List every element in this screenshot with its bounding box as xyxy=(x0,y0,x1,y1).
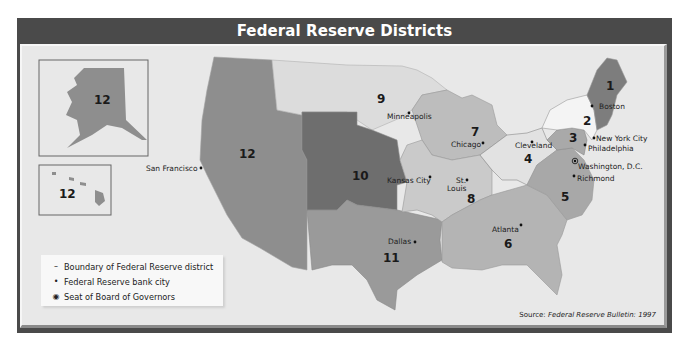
district-12-label: 12 xyxy=(239,147,256,161)
legend-item-bank-city: • Federal Reserve bank city xyxy=(51,274,223,289)
district-2-label: 2 xyxy=(583,114,591,128)
map-frame: Federal Reserve Districts 12 12 xyxy=(17,18,672,333)
city-dallas: Dallas xyxy=(388,237,411,246)
city-kansas-city: Kansas City xyxy=(387,176,431,185)
legend-item-boundary: – Boundary of Federal Reserve district xyxy=(51,259,223,274)
district-9-label: 9 xyxy=(377,92,385,106)
district-1-label: 1 xyxy=(606,79,614,93)
board-seat-icon: ◉ xyxy=(51,292,61,301)
city-philadelphia: Philadelphia xyxy=(588,144,634,153)
city-richmond: Richmond xyxy=(577,174,615,183)
district-7-label: 7 xyxy=(471,125,479,139)
city-chicago: Chicago xyxy=(451,140,482,149)
boundary-line-icon: – xyxy=(51,262,61,271)
city-atlanta: Atlanta xyxy=(492,225,519,234)
title-bar: Federal Reserve Districts xyxy=(17,18,672,44)
district-11-region xyxy=(307,200,442,310)
district-10-label: 10 xyxy=(352,169,369,183)
alaska-shape xyxy=(66,68,147,148)
legend: – Boundary of Federal Reserve district •… xyxy=(41,255,223,306)
city-san-francisco: San Francisco xyxy=(146,164,198,173)
city-new-york: New York City xyxy=(596,134,648,143)
district-10-region xyxy=(302,112,407,210)
page-title: Federal Reserve Districts xyxy=(237,22,453,40)
bank-city-dot-icon: • xyxy=(51,277,61,286)
city-boston: Boston xyxy=(599,102,625,111)
city-minneapolis: Minneapolis xyxy=(387,112,432,121)
city-washington-dc: Washington, D.C. xyxy=(578,162,643,171)
city-cleveland: Cleveland xyxy=(515,141,552,150)
map-area: 12 12 xyxy=(20,44,667,328)
district-8-label: 8 xyxy=(467,192,475,206)
district-11-label: 11 xyxy=(383,251,400,265)
district-3-label: 3 xyxy=(569,131,577,145)
district-4-label: 4 xyxy=(524,152,532,166)
district-5-label: 5 xyxy=(561,190,569,204)
source-citation: Source: Federal Reserve Bulletin: 1997 xyxy=(519,311,656,319)
district-6-label: 6 xyxy=(504,237,512,251)
district-12-alaska-label: 12 xyxy=(94,93,111,107)
legend-item-board-seat: ◉ Seat of Board of Governors xyxy=(51,289,223,304)
city-st-louis-line2: Louis xyxy=(447,184,466,193)
district-12-hawaii-label: 12 xyxy=(59,187,76,201)
